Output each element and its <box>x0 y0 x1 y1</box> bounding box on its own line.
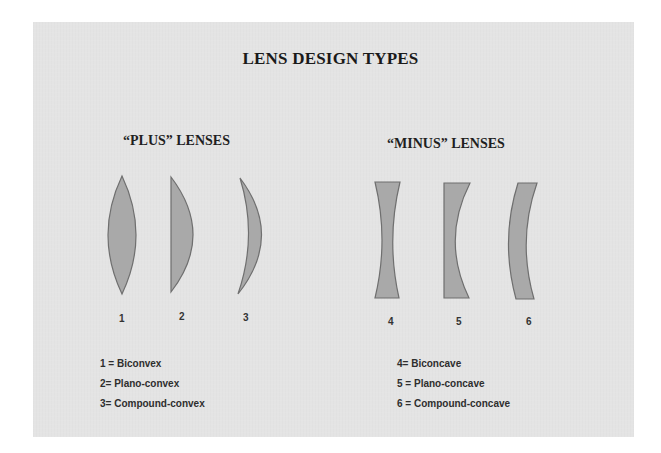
lens-number-3: 3 <box>243 312 249 323</box>
legend-compound-convex: 3= Compound-convex <box>100 398 205 409</box>
legend-compound-concave: 6 = Compound-concave <box>397 398 510 409</box>
plano-convex-lens-shape <box>171 177 193 292</box>
biconcave-lens-shape <box>375 182 400 298</box>
lens-number-1: 1 <box>119 313 125 324</box>
legend-plano-concave: 5 = Plano-concave <box>397 378 485 389</box>
legend-plano-convex: 2= Plano-convex <box>100 378 179 389</box>
legend-biconcave: 4= Biconcave <box>397 358 461 369</box>
plano-concave-lens-shape <box>444 183 470 298</box>
lens-number-5: 5 <box>456 316 462 327</box>
lens-number-6: 6 <box>526 316 532 327</box>
legend-biconvex: 1 = Biconvex <box>100 358 161 369</box>
biconvex-lens-shape <box>108 176 136 294</box>
compound-concave-lens-shape <box>508 183 537 299</box>
lens-number-2: 2 <box>179 311 185 322</box>
lens-number-4: 4 <box>388 316 394 327</box>
compound-convex-lens-shape <box>238 178 262 294</box>
